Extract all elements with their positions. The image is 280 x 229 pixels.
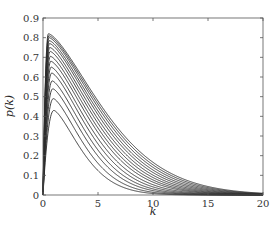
plot-frame <box>43 18 263 195</box>
data-curve <box>43 56 263 195</box>
data-curve <box>43 34 263 195</box>
y-tick-label: 0.3 <box>23 131 39 142</box>
y-tick-label: 0.1 <box>23 170 39 181</box>
y-tick-label: 0.6 <box>23 72 39 83</box>
y-axis-label: p(k) <box>3 95 16 117</box>
data-curve <box>43 99 263 195</box>
data-curve <box>43 41 263 195</box>
y-tick-label: 0.4 <box>23 111 39 122</box>
x-tick-label: 15 <box>202 198 215 209</box>
data-curve <box>43 38 263 195</box>
y-tick-label: 0.5 <box>23 91 39 102</box>
y-tick-label: 0 <box>33 190 39 201</box>
x-tick-label: 20 <box>257 198 270 209</box>
y-tick-label: 0.2 <box>23 150 39 161</box>
y-tick-label: 0.8 <box>23 32 39 43</box>
curve-group <box>43 34 263 195</box>
x-tick-label: 5 <box>95 198 101 209</box>
x-tick-label: 0 <box>40 198 46 209</box>
y-tick-label: 0.9 <box>23 13 39 24</box>
y-tick-label: 0.7 <box>23 52 39 63</box>
chart: 05101520 00.10.20.30.40.50.60.70.80.9 k … <box>0 0 280 229</box>
y-axis: 00.10.20.30.40.50.60.70.80.9 <box>23 13 263 201</box>
x-axis-label: k <box>150 205 157 218</box>
